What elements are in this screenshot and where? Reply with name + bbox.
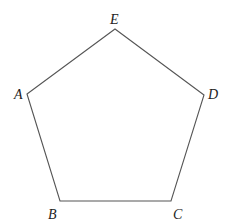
pentagon-outline xyxy=(27,29,204,201)
vertex-label-e: E xyxy=(109,12,119,27)
vertex-label-a: A xyxy=(13,87,23,102)
vertex-label-c: C xyxy=(173,207,183,221)
pentagon-diagram: A B C D E xyxy=(0,0,231,221)
vertex-label-b: B xyxy=(48,207,57,221)
vertex-label-d: D xyxy=(207,87,218,102)
